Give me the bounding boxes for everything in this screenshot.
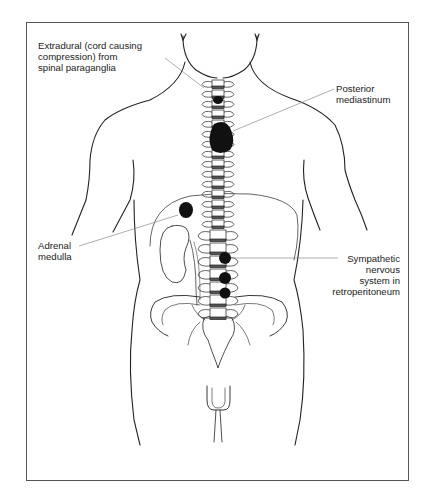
- tumour-sympathetic-lower: [220, 288, 231, 299]
- left-iliac-crest: [151, 295, 200, 336]
- neck-right-outline: [223, 36, 257, 78]
- label-adrenal-medulla: Adrenal medulla: [38, 240, 72, 262]
- intervertebral-disc: [212, 176, 224, 179]
- label-sympathetic-retroperitoneum: Sympathetic nervous system in retroperit…: [332, 253, 400, 297]
- left-torso-side: [130, 200, 140, 445]
- intervertebral-disc: [212, 106, 224, 109]
- label-posterior-mediastinum: Posterior mediastinum: [336, 83, 390, 105]
- vertebra-body: [210, 243, 226, 253]
- sacrum: [203, 315, 235, 368]
- right-inner-arm: [304, 160, 321, 230]
- intervertebral-disc: [212, 156, 224, 159]
- tumour-adrenal-medulla: [179, 202, 193, 218]
- tumour-extradural: [213, 96, 223, 104]
- legs-inner: [214, 410, 222, 442]
- intervertebral-disc: [212, 86, 224, 89]
- right-torso-side: [294, 200, 304, 445]
- vertebral-column: [198, 80, 238, 320]
- genitalia-outline: [207, 386, 230, 410]
- left-iliac-inner: [162, 303, 200, 325]
- left-shoulder-arm-outline: [72, 62, 185, 235]
- left-inner-arm: [113, 160, 134, 232]
- intervertebral-disc: [212, 186, 224, 189]
- tumour-sympathetic-middle: [219, 272, 231, 284]
- intervertebral-disc: [210, 239, 226, 242]
- leader-adrenal-medulla: [79, 215, 178, 246]
- intervertebral-disc: [210, 317, 226, 320]
- kidney-outline: [160, 225, 189, 282]
- vertebra-body: [210, 308, 226, 318]
- tumour-sympathetic-upper: [219, 252, 231, 264]
- intervertebral-disc: [212, 116, 224, 119]
- right-iliac-crest: [235, 295, 287, 336]
- intervertebral-disc: [212, 206, 224, 209]
- intervertebral-disc: [210, 304, 226, 307]
- intervertebral-disc: [212, 226, 224, 229]
- label-extradural: Extradural (cord causing compression) fr…: [38, 40, 142, 73]
- tumour-posterior-mediastinum: [209, 122, 233, 153]
- intervertebral-disc: [212, 216, 224, 219]
- vertebra-body: [210, 230, 226, 240]
- neck-left-outline: [183, 36, 217, 78]
- intervertebral-disc: [212, 166, 224, 169]
- right-iliac-inner: [235, 303, 274, 325]
- genitalia-inner: [212, 388, 225, 408]
- intervertebral-disc: [212, 196, 224, 199]
- intervertebral-disc: [210, 265, 226, 268]
